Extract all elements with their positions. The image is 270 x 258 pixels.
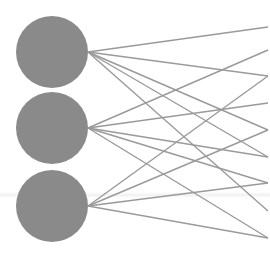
edges-group <box>88 27 268 238</box>
edge-n1-0 <box>88 27 268 52</box>
node-n3 <box>16 170 88 242</box>
edge-n2-5 <box>88 50 268 128</box>
node-n2 <box>16 92 88 164</box>
edge-n2-8 <box>88 128 268 183</box>
edge-n2-6 <box>88 103 268 128</box>
node-n1 <box>16 16 88 88</box>
network-diagram <box>0 0 270 258</box>
nodes-group <box>16 16 88 242</box>
